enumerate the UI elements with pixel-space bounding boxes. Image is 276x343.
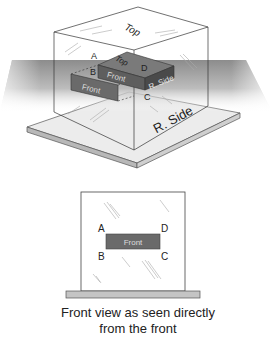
iso-corner-d: D bbox=[141, 63, 148, 73]
caption-line-1: Front view as seen directly bbox=[0, 305, 276, 321]
front-view: Front A B C D bbox=[66, 192, 200, 298]
front-view-corner-d: D bbox=[161, 223, 168, 234]
front-view-corner-c: C bbox=[161, 251, 168, 262]
front-view-base bbox=[66, 291, 200, 298]
front-view-corner-b: B bbox=[98, 251, 105, 262]
iso-corner-b: B bbox=[90, 67, 96, 77]
figure-caption: Front view as seen directly from the fro… bbox=[0, 305, 276, 337]
isometric-view: Top R. Side Front Top Front R. Side A B … bbox=[0, 7, 272, 168]
iso-corner-a: A bbox=[91, 51, 97, 61]
caption-line-2: from the front bbox=[0, 321, 276, 337]
iso-corner-c: C bbox=[144, 92, 151, 102]
front-view-block-label: Front bbox=[124, 238, 143, 247]
diagram-canvas: Top R. Side Front Top Front R. Side A B … bbox=[0, 0, 276, 343]
front-view-corner-a: A bbox=[98, 223, 105, 234]
